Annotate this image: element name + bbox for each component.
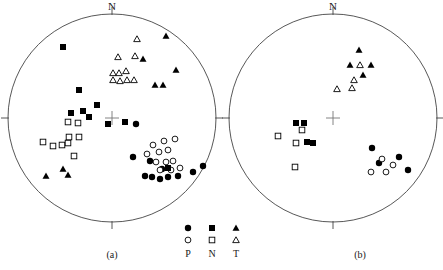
stereonet-canvas xyxy=(0,0,443,270)
data-point-open-triangle xyxy=(123,68,130,74)
legend-symbol-open-triangle xyxy=(233,237,240,243)
data-point-open-triangle xyxy=(131,77,138,83)
data-point-open-triangle xyxy=(110,77,117,83)
data-point-open-triangle xyxy=(134,36,141,42)
data-point-open-circle xyxy=(163,159,169,165)
data-point-filled-triangle xyxy=(163,33,170,39)
data-point-filled-triangle xyxy=(347,62,354,68)
data-point-filled-square xyxy=(60,44,66,50)
data-point-filled-square xyxy=(304,139,310,145)
data-point-filled-circle xyxy=(142,173,148,179)
data-point-open-circle xyxy=(379,156,385,162)
data-point-open-triangle xyxy=(357,62,364,68)
data-point-open-square xyxy=(66,134,72,140)
data-point-open-circle xyxy=(170,158,176,164)
data-point-open-square xyxy=(293,140,299,146)
north-label-b: N xyxy=(325,1,341,12)
data-point-filled-triangle xyxy=(356,47,363,53)
data-point-open-circle xyxy=(161,138,167,144)
data-point-filled-triangle xyxy=(160,82,167,88)
legend-symbol-filled-triangle xyxy=(233,225,240,231)
series-a-filled-square xyxy=(60,44,171,171)
data-point-filled-triangle xyxy=(43,173,50,179)
data-point-filled-square xyxy=(310,140,316,146)
stereonet-panel-b xyxy=(222,7,443,229)
data-point-open-triangle xyxy=(117,78,124,84)
data-point-filled-triangle xyxy=(368,62,375,68)
data-point-open-triangle xyxy=(351,77,358,83)
data-point-filled-triangle xyxy=(140,56,147,62)
data-point-open-square xyxy=(59,142,65,148)
series-a-open-triangle xyxy=(110,36,141,84)
data-point-filled-square xyxy=(68,110,74,116)
data-point-filled-circle xyxy=(369,145,375,151)
data-point-open-circle xyxy=(156,149,162,155)
data-point-filled-square xyxy=(105,121,111,127)
series-a-filled-triangle xyxy=(43,33,180,179)
data-point-filled-circle xyxy=(405,167,411,173)
data-point-filled-square xyxy=(80,108,86,114)
stereonet-figure: N N (a) (b) P N T xyxy=(0,0,443,270)
legend-symbol-filled-circle xyxy=(185,225,191,231)
data-point-open-square xyxy=(275,133,281,139)
data-point-open-triangle xyxy=(349,85,356,91)
data-point-filled-circle xyxy=(130,154,136,160)
legend-symbol-open-circle xyxy=(185,237,191,243)
data-point-filled-triangle xyxy=(60,166,67,172)
north-label-a: N xyxy=(104,1,120,12)
data-point-open-triangle xyxy=(334,86,341,92)
data-point-open-circle xyxy=(153,159,159,165)
data-point-open-circle xyxy=(157,167,163,173)
data-point-open-triangle xyxy=(124,77,131,83)
data-point-open-triangle xyxy=(115,54,122,60)
data-point-filled-circle xyxy=(149,174,155,180)
panel-caption-a: (a) xyxy=(100,250,124,260)
data-point-filled-circle xyxy=(157,176,163,182)
panel-caption-b: (b) xyxy=(348,250,372,260)
data-point-filled-square xyxy=(76,87,82,93)
data-point-open-triangle xyxy=(132,53,139,59)
data-point-open-triangle xyxy=(110,70,117,76)
data-point-open-triangle xyxy=(116,70,123,76)
legend-symbol-filled-square xyxy=(209,225,215,231)
data-point-filled-circle xyxy=(175,173,181,179)
series-b-open-square xyxy=(275,127,305,170)
data-point-filled-triangle xyxy=(173,67,180,73)
data-point-filled-circle xyxy=(147,158,153,164)
data-point-open-circle xyxy=(150,142,156,148)
data-point-filled-circle xyxy=(165,174,171,180)
data-point-filled-square xyxy=(301,120,307,126)
data-point-open-circle xyxy=(144,151,150,157)
data-point-filled-square xyxy=(86,114,92,120)
data-point-open-square xyxy=(50,143,56,149)
data-point-open-circle xyxy=(177,165,183,171)
data-point-open-square xyxy=(65,119,71,125)
data-point-filled-circle xyxy=(133,121,139,127)
data-point-open-square xyxy=(65,140,71,146)
data-point-filled-square xyxy=(122,119,128,125)
data-point-open-square xyxy=(76,134,82,140)
data-point-open-square xyxy=(40,139,46,145)
data-point-open-circle xyxy=(383,169,389,175)
data-point-filled-circle xyxy=(200,163,206,169)
data-point-open-square xyxy=(299,127,305,133)
stereonet-panel-a xyxy=(1,7,223,229)
legend xyxy=(185,225,240,243)
series-a-open-square xyxy=(40,119,82,159)
data-point-filled-triangle xyxy=(65,172,72,178)
data-point-open-circle xyxy=(165,147,171,153)
data-point-open-circle xyxy=(368,169,374,175)
data-point-filled-circle xyxy=(396,154,402,160)
legend-label-t: T xyxy=(230,249,242,259)
data-point-filled-square xyxy=(293,120,299,126)
data-point-open-square xyxy=(292,164,298,170)
data-point-open-circle xyxy=(390,162,396,168)
series-b-open-circle xyxy=(368,156,396,175)
data-point-filled-triangle xyxy=(360,72,367,78)
data-point-filled-circle xyxy=(190,169,196,175)
data-point-filled-square xyxy=(94,102,100,108)
data-point-open-circle xyxy=(172,136,178,142)
series-b-filled-circle xyxy=(369,145,411,173)
legend-symbol-open-square xyxy=(209,237,215,243)
data-point-open-square xyxy=(75,120,81,126)
